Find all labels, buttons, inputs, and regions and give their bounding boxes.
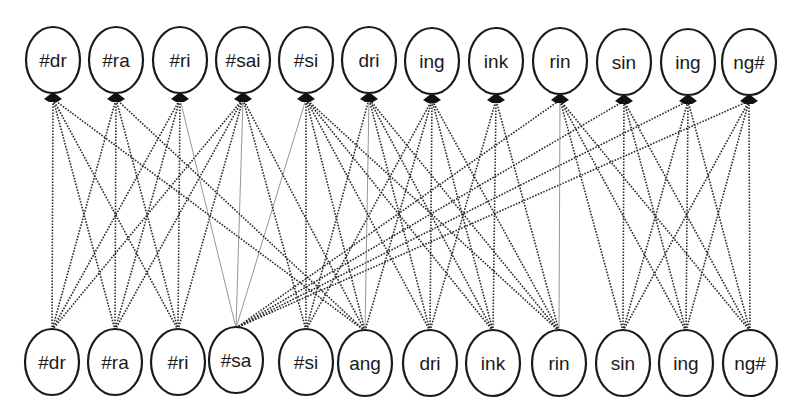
bottom-node-ang[interactable]: ang [338, 330, 392, 396]
bottom-node-ink[interactable]: ink [466, 330, 520, 396]
bottom-node-hash-ri[interactable]: #ri [151, 329, 205, 395]
node-label: #si [294, 352, 318, 373]
edge-rin-to-#si [306, 99, 559, 331]
edge-#sa-to-ng# [236, 101, 749, 328]
node-label: sin [612, 52, 636, 73]
bottom-node-nghash-[interactable]: ng# [723, 330, 777, 396]
top-node-nghash-[interactable]: ng# [722, 29, 776, 95]
edge-ink-to-ink [493, 100, 496, 331]
edge-dri-to-ink [430, 100, 496, 331]
top-node-rin[interactable]: rin [533, 28, 587, 94]
node-label: dri [358, 50, 379, 71]
edge-#dr-to-#ra [52, 99, 116, 330]
edge-ing-to-ng# [686, 101, 749, 331]
edge-ang-to-ing [365, 100, 432, 331]
bipartite-graph-diagram: #dr#ra#ri#sai#sidriinginkrinsiningng# #d… [0, 0, 805, 419]
edge-#ri-to-#ri [178, 99, 180, 330]
node-label: sin [611, 353, 635, 374]
edge-ink-to-ing [432, 100, 493, 331]
edge-ang-to-#si [306, 99, 365, 331]
edge-#dr-to-#sai [52, 99, 243, 330]
edge-ng#-to-rin [560, 100, 750, 331]
bottom-node-dri[interactable]: dri [403, 330, 457, 396]
bottom-node-hash-dr[interactable]: #dr [25, 329, 79, 395]
edge-ing-to-ing [686, 101, 688, 331]
edge-ng#-to-ing [688, 101, 750, 331]
top-node-ing[interactable]: ing [405, 28, 459, 94]
edge-ng#-to-ng# [749, 101, 750, 331]
node-label: #sa [221, 350, 252, 371]
node-label: ing [673, 353, 698, 374]
node-label: ng# [734, 353, 766, 374]
edge-#ra-to-#ra [115, 99, 116, 330]
arrowheads-layer [44, 92, 758, 104]
edge-#si-to-dri [306, 99, 369, 330]
edge-ang-to-#dr [53, 99, 365, 331]
node-label: ing [675, 52, 700, 73]
bottom-node-sin[interactable]: sin [596, 330, 650, 396]
edge-ang-to-dri [365, 99, 369, 331]
top-node-hash-sai[interactable]: #sai [216, 27, 270, 93]
top-node-dri[interactable]: dri [342, 27, 396, 93]
node-label: #ri [167, 352, 188, 373]
bottom-node-hash-si[interactable]: #si [279, 329, 333, 395]
top-node-hash-si[interactable]: #si [279, 27, 333, 93]
top-node-sin[interactable]: sin [597, 29, 651, 95]
node-label: rin [548, 353, 569, 374]
edge-rin-to-ink [496, 100, 559, 331]
node-label: #dr [38, 352, 66, 373]
edge-ink-to-dri [369, 99, 493, 331]
edges-layer [52, 99, 750, 331]
bottom-node-rin[interactable]: rin [532, 330, 586, 396]
node-label: #ri [169, 50, 190, 71]
top-node-ing[interactable]: ing [661, 29, 715, 95]
top-node-row: #dr#ra#ri#sai#sidriinginkrinsiningng# [26, 27, 776, 95]
edge-rin-to-rin [559, 100, 560, 331]
edge-dri-to-ing [430, 100, 432, 331]
edge-#dr-to-#dr [52, 99, 53, 330]
edge-sin-to-sin [623, 101, 624, 331]
edge-#ra-to-#ri [115, 99, 180, 330]
top-node-hash-dr[interactable]: #dr [26, 27, 80, 93]
top-node-hash-ri[interactable]: #ri [153, 27, 207, 93]
edge-#sa-to-#si [236, 99, 306, 328]
node-label: ink [481, 353, 506, 374]
edge-#si-to-#sai [243, 99, 306, 330]
top-node-ink[interactable]: ink [469, 28, 523, 94]
node-label: ng# [733, 52, 765, 73]
bottom-node-hash-sa[interactable]: #sa [209, 327, 263, 393]
bottom-node-hash-ra[interactable]: #ra [88, 329, 142, 395]
edge-ang-to-#sai [243, 99, 365, 331]
edge-sin-to-ing [623, 101, 688, 331]
node-label: rin [549, 51, 570, 72]
node-label: dri [419, 353, 440, 374]
node-label: #ra [102, 50, 130, 71]
node-label: #sai [226, 50, 261, 71]
bottom-node-ing[interactable]: ing [659, 330, 713, 396]
node-label: #dr [39, 50, 67, 71]
node-label: ang [349, 353, 381, 374]
top-node-hash-ra[interactable]: #ra [89, 27, 143, 93]
edge-#ri-to-#sai [178, 99, 243, 330]
node-label: #si [294, 50, 318, 71]
node-label: #ra [101, 352, 129, 373]
bottom-node-row: #dr#ra#ri#sa#siangdriinkrinsiningng# [25, 327, 777, 396]
edge-ink-to-#si [306, 99, 493, 331]
node-label: ing [419, 51, 444, 72]
edge-ang-to-#ra [116, 99, 365, 331]
edge-dri-to-dri [369, 99, 430, 331]
node-label: ink [484, 51, 509, 72]
edge-sin-to-rin [560, 100, 623, 331]
